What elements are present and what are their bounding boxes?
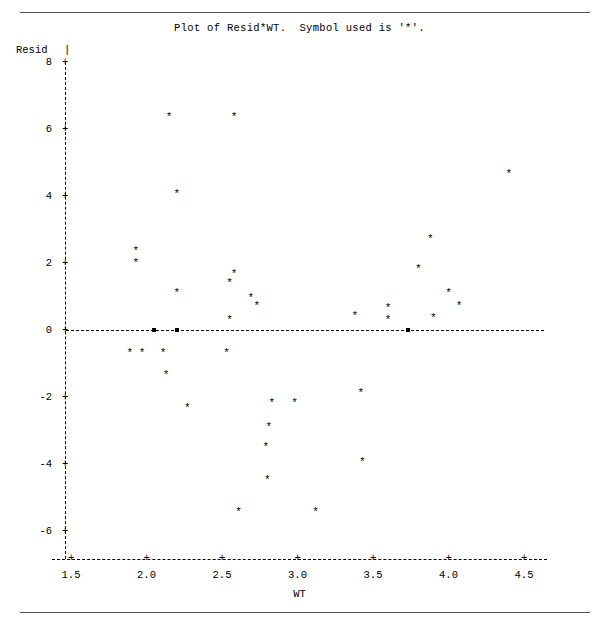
- x-axis-line: [52, 559, 547, 560]
- data-point: [406, 328, 410, 332]
- data-point: *: [226, 278, 234, 288]
- data-point: *: [358, 457, 366, 467]
- data-point: *: [384, 303, 392, 313]
- data-point: *: [132, 246, 140, 256]
- data-point: *: [445, 288, 453, 298]
- data-point: *: [235, 507, 243, 517]
- y-tick-label: 0: [10, 325, 52, 335]
- sas-plot-page: Plot of Resid*WT. Symbol used is '*'. Re…: [0, 0, 599, 630]
- data-point: *: [263, 475, 271, 485]
- data-point: *: [312, 507, 320, 517]
- y-tick-label: 8: [10, 57, 52, 67]
- x-tick-label: 2.5: [202, 569, 242, 581]
- data-point: *: [165, 112, 173, 122]
- x-tick-label: 4.0: [429, 569, 469, 581]
- data-point: *: [265, 422, 273, 432]
- data-point: *: [429, 313, 437, 323]
- data-point: *: [173, 288, 181, 298]
- x-tick-mark: +: [370, 554, 376, 562]
- data-point: *: [226, 315, 234, 325]
- x-tick-mark: +: [521, 554, 527, 562]
- y-tick-label: -4: [10, 459, 52, 469]
- y-tick-label: 6: [10, 124, 52, 134]
- x-tick-label: 3.0: [278, 569, 318, 581]
- data-point: *: [223, 348, 231, 358]
- x-tick-mark: +: [68, 554, 74, 562]
- x-tick-mark: +: [144, 554, 150, 562]
- y-tick-label: -2: [10, 392, 52, 402]
- data-point: *: [414, 264, 422, 274]
- data-point: *: [268, 398, 276, 408]
- data-point: *: [357, 388, 365, 398]
- data-point: *: [173, 189, 181, 199]
- data-point: *: [159, 348, 167, 358]
- y-tick-label: 4: [10, 191, 52, 201]
- data-point: *: [132, 258, 140, 268]
- data-point: *: [262, 442, 270, 452]
- data-point: *: [230, 112, 238, 122]
- data-point: *: [183, 403, 191, 413]
- x-tick-mark: +: [446, 554, 452, 562]
- data-point: [175, 328, 179, 332]
- x-tick-mark: +: [219, 554, 225, 562]
- data-point: *: [351, 311, 359, 321]
- plot-area: 8+6+4+2+0+-2+-4+-6++1.5+2.0+2.5+3.0+3.5+…: [0, 0, 599, 630]
- data-point: [152, 328, 156, 332]
- data-point: *: [455, 301, 463, 311]
- data-point: *: [138, 348, 146, 358]
- x-tick-label: 2.0: [127, 569, 167, 581]
- zero-reference-line: [66, 330, 544, 331]
- data-point: *: [126, 348, 134, 358]
- x-axis-title: WT: [0, 588, 599, 600]
- data-point: *: [384, 315, 392, 325]
- x-tick-mark: +: [295, 554, 301, 562]
- y-tick-label: 2: [10, 258, 52, 268]
- data-point: *: [162, 370, 170, 380]
- data-point: *: [426, 234, 434, 244]
- y-tick-label: -6: [10, 526, 52, 536]
- x-tick-label: 1.5: [51, 569, 91, 581]
- data-point: *: [290, 398, 298, 408]
- x-tick-label: 3.5: [353, 569, 393, 581]
- y-axis-line: [65, 62, 66, 559]
- x-tick-label: 4.5: [504, 569, 544, 581]
- data-point: *: [505, 169, 513, 179]
- data-point: *: [253, 301, 261, 311]
